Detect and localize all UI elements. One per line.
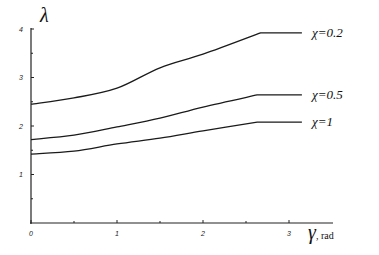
x-tick-label: 2 [200, 230, 205, 237]
chart-root: 1234 0123 χ=0.2χ=0.5χ=1 λ γ, rad [0, 0, 379, 255]
y-tick-label: 4 [19, 26, 23, 33]
x-axis-label: γ, rad [308, 221, 334, 244]
series-label: χ=0.2 [310, 25, 343, 40]
axes: 1234 0123 [18, 26, 333, 238]
series-label: χ=1 [310, 114, 333, 129]
series-lines [31, 33, 302, 154]
series-label: χ=0.5 [310, 87, 343, 102]
x-tick-label: 0 [29, 230, 33, 237]
series-labels: χ=0.2χ=0.5χ=1 [310, 25, 343, 129]
x-axis-unit: , rad [316, 230, 334, 241]
series-line [31, 95, 302, 140]
y-axis-label: λ [39, 4, 49, 26]
y-tick-label: 1 [19, 171, 23, 178]
series-line [31, 33, 302, 104]
line-chart: 1234 0123 χ=0.2χ=0.5χ=1 λ γ, rad [0, 0, 379, 255]
y-tick-label: 3 [19, 74, 23, 81]
y-tick-label: 2 [18, 123, 23, 130]
series-line [31, 122, 302, 154]
x-tick-label: 3 [287, 230, 291, 237]
x-tick-label: 1 [115, 230, 119, 237]
